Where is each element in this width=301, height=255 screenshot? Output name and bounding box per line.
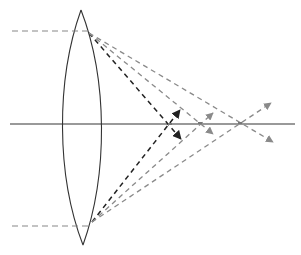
refracted-ray-far-5: [92, 103, 271, 222]
refracted-rays: [89, 33, 273, 222]
diagram-canvas: [0, 0, 301, 255]
lens-diagram: Converging lens with spherical aberratio…: [0, 0, 301, 255]
refracted-ray-near-0: [89, 33, 181, 139]
biconvex-lens: [62, 10, 101, 245]
refracted-ray-near-1: [92, 110, 180, 222]
refracted-ray-mid-3: [92, 113, 213, 222]
refracted-ray-mid-2: [89, 33, 213, 134]
refracted-ray-far-4: [89, 33, 273, 142]
incoming-rays: [12, 31, 92, 226]
